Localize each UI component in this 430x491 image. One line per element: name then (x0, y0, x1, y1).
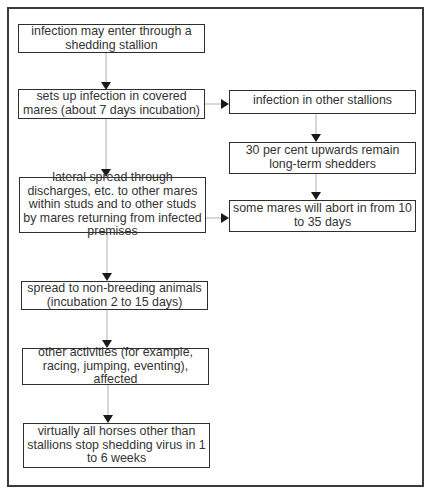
connector-arrows (0, 0, 430, 491)
node-stop-shedding: virtually all horses other than stallion… (23, 423, 210, 468)
node-covered-mares: sets up infection in covered mares (abou… (18, 89, 205, 119)
node-stallion-entry: infection may enter through a shedding s… (18, 24, 205, 53)
node-non-breeding-spread: spread to non-breeding animals (incubati… (21, 281, 208, 310)
node-other-activities: other activities (for example, racing, j… (22, 348, 209, 385)
node-lateral-spread: lateral spread through discharges, etc. … (19, 177, 206, 233)
node-other-stallions: infection in other stallions (229, 90, 416, 114)
node-mares-abort: some mares will abort in from 10 to 35 d… (229, 200, 416, 232)
node-long-term-shedders: 30 per cent upwards remain long-term she… (229, 142, 416, 174)
